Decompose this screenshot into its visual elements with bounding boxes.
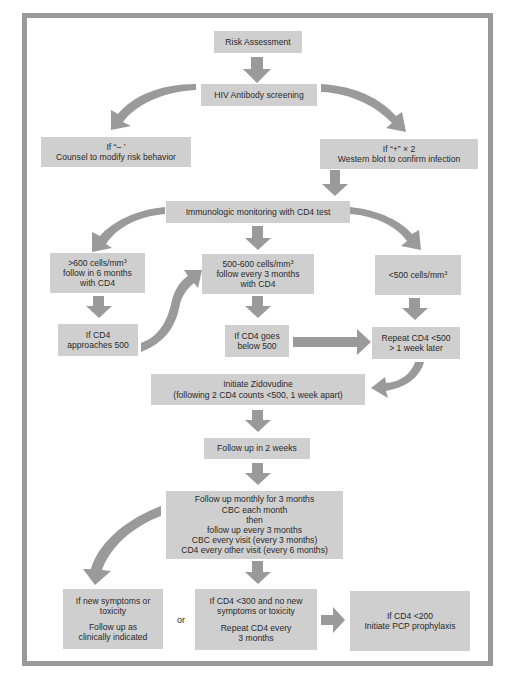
node-text: 500-600 cells/mm3 (223, 259, 294, 269)
node-text: Follow up monthly for 3 months (195, 494, 314, 504)
node-text: Repeat CD4 every (221, 623, 292, 633)
superscript: 3 (124, 258, 127, 264)
node-text: below 500 (237, 341, 276, 351)
node-text: <500 cells/mm3 (389, 270, 448, 280)
node-text: If new symptoms or (76, 596, 151, 606)
node-text: approaches 500 (67, 340, 129, 350)
superscript: 3 (290, 259, 293, 265)
node-text: CBC every visit (every 3 months) (192, 535, 318, 545)
node-text: Initiate Zidovudine (223, 379, 293, 389)
node-cd4-under-300: If CD4 <300 and no new symptoms or toxic… (195, 589, 317, 650)
node-risk-assessment: Risk Assessment (214, 31, 302, 53)
arrow-zido-to-fu2 (245, 410, 271, 432)
node-positive-western-blot: If “+” × 2 Western blot to confirm infec… (320, 139, 478, 169)
node-text: (following 2 CD4 counts <500, 1 week apa… (173, 390, 342, 400)
node-text-part: 500-600 cells/mm (223, 259, 291, 269)
node-pcp-prophylaxis: If CD4 <200 Initiate PCP prophylaxis (350, 591, 470, 651)
node-cd4-approaches-500: If CD4 approaches 500 (58, 324, 138, 356)
node-new-symptoms: If new symptoms or toxicity Follow up as… (63, 589, 163, 649)
node-repeat-cd4: Repeat CD4 <500 > 1 week later (372, 327, 460, 359)
node-text: If CD4 <300 and no new (210, 596, 303, 606)
node-text: toxicity (100, 606, 126, 616)
node-text: HIV Antibody screening (214, 90, 303, 100)
arrow-immuno-to-mid (245, 226, 271, 250)
arrow-monthly-to-symptoms (83, 506, 161, 585)
node-text: Risk Assessment (225, 37, 290, 47)
node-text: If “+” × 2 (383, 144, 415, 154)
node-text: Initiate PCP prophylaxis (364, 621, 455, 631)
node-cd4-under-500: <500 cells/mm3 (375, 255, 461, 295)
arrow-mid-to-below (245, 296, 271, 318)
arrow-hiv-to-neg (111, 84, 196, 130)
node-text: clinically indicated (79, 632, 148, 642)
arrow-risk-to-hiv (243, 57, 271, 83)
arrow-hiv-to-pos (321, 84, 406, 132)
node-text: with CD4 (80, 278, 115, 288)
node-text: follow in 6 months (63, 268, 132, 278)
node-text: If CD4 <200 (387, 611, 433, 621)
node-initiate-zidovudine: Initiate Zidovudine (following 2 CD4 cou… (151, 374, 365, 405)
node-text: Follow up in 2 weeks (217, 443, 297, 453)
arrow-monthly-to-cd4-300 (245, 561, 271, 584)
arrow-lt500-to-repeat (402, 298, 428, 320)
arrow-pos-to-immuno (322, 170, 348, 196)
node-text: CD4 every other visit (every 6 months) (181, 545, 328, 555)
node-text: Counsel to modify risk behavior (56, 152, 176, 162)
node-cd4-500-600: 500-600 cells/mm3 follow every 3 months … (202, 254, 314, 294)
node-text: > 1 week later (389, 343, 443, 353)
arrow-repeat-to-zido (371, 362, 424, 398)
node-monthly-follow-up: Follow up monthly for 3 months CBC each … (166, 491, 343, 559)
node-text: follow every 3 months (216, 269, 299, 279)
node-text: CBC each month (222, 505, 287, 515)
node-text: If “– ’ (106, 142, 125, 152)
arrow-cd4-300-to-pcp (321, 607, 345, 633)
node-text: then (246, 515, 263, 525)
node-cd4-below-500: If CD4 goes below 500 (225, 325, 289, 357)
arrow-below-to-repeat (293, 329, 371, 355)
node-text: symptoms or toxicity (217, 606, 295, 616)
node-text: If CD4 (86, 330, 110, 340)
node-cd4-over-600: >600 cells/mm3 follow in 6 months with C… (50, 253, 145, 293)
node-text: 3 months (238, 633, 273, 643)
node-text: >600 cells/mm3 (68, 258, 127, 268)
arrow-fu2-to-monthly (245, 463, 271, 485)
node-text-part: <500 cells/mm (389, 270, 445, 280)
node-negative-counsel: If “– ’ Counsel to modify risk behavior (41, 137, 191, 167)
node-follow-up-2-weeks: Follow up in 2 weeks (204, 438, 310, 459)
arrow-immuno-to-gt600 (92, 207, 165, 252)
arrow-gt600-to-approach (86, 296, 112, 318)
node-text: with CD4 (241, 279, 276, 289)
node-text: Follow up as (89, 622, 137, 632)
or-label: or (177, 615, 185, 625)
node-text-part: >600 cells/mm (68, 258, 124, 268)
node-text: Immunologic monitoring with CD4 test (186, 207, 331, 217)
node-hiv-antibody-screening: HIV Antibody screening (201, 84, 317, 106)
node-text: If CD4 goes (234, 331, 279, 341)
node-text: Western blot to confirm infection (338, 154, 461, 164)
arrow-approach-to-mid (141, 270, 202, 352)
node-text: follow up every 3 months (207, 525, 302, 535)
superscript: 3 (444, 270, 447, 276)
arrow-immuno-to-lt500 (350, 207, 421, 250)
node-immunologic-monitoring: Immunologic monitoring with CD4 test (166, 201, 350, 223)
node-text: Repeat CD4 <500 (381, 333, 450, 343)
